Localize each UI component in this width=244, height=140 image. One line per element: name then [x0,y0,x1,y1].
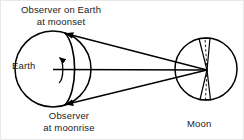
moon-cone-upper-right [207,38,210,70]
sight-lines-group [53,34,207,105]
lunar-parallax-figure: Observer on Earth at moonset Observer at… [0,0,244,140]
moon-group [175,38,237,100]
moon-cone-lower-right [207,70,211,100]
label-earth: Earth [12,60,35,72]
label-observer-at-moonrise-line1: Observer [19,110,119,122]
sight-line-center [53,70,207,71]
label-observer-at-moonset: Observer on Earth at moonset [9,4,113,28]
earth-rotation-arrow [59,58,63,84]
label-moon: Moon [187,118,211,130]
label-observer-at-moonrise-line2: at moonrise [19,122,119,134]
label-observer-at-moonrise: Observer at moonrise [19,110,119,134]
label-observer-at-moonset-line2: at moonset [9,16,113,28]
label-observer-at-moonset-line1: Observer on Earth [9,4,113,16]
